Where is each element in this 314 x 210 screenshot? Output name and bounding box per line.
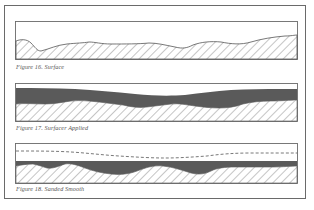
figure-16-drawing — [15, 21, 299, 61]
figure-16-surface — [15, 21, 299, 61]
figure-17-drawing — [15, 83, 299, 123]
figure-18-drawing — [15, 143, 299, 185]
figure-18-sanded-smooth — [15, 143, 299, 185]
figure-17-caption: Figure 17. Surfacer Applied — [16, 124, 88, 131]
figure-17-surfacer-applied — [15, 83, 299, 123]
figure-18-caption: Figure 18. Sanded Smooth — [16, 185, 84, 192]
figure-16-caption: Figure 16. Surface — [16, 63, 64, 70]
